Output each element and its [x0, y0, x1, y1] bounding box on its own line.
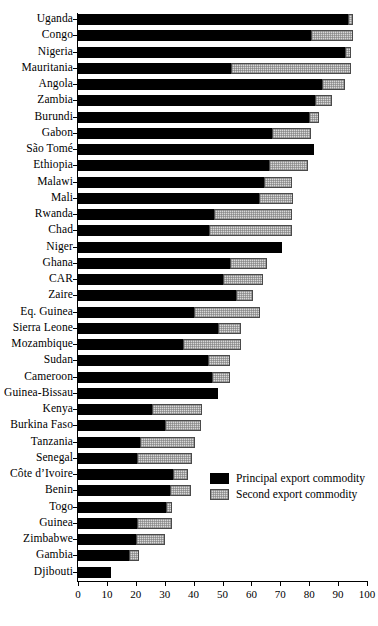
- bar-segment-second: [218, 323, 241, 334]
- y-axis-tick: [73, 117, 77, 118]
- y-axis-tick: [73, 425, 77, 426]
- category-label: Sudan: [0, 354, 73, 365]
- bar-segment-principal: [78, 274, 223, 285]
- bar-segment-second: [348, 14, 352, 25]
- chart-legend: Principal export commodity Second export…: [210, 470, 365, 502]
- x-axis-tick-label: 90: [323, 588, 353, 600]
- y-axis-tick: [73, 182, 77, 183]
- bar-segment-principal: [78, 258, 230, 269]
- x-axis-tick: [107, 581, 108, 586]
- y-axis-tick: [73, 344, 77, 345]
- y-axis-tick: [73, 214, 77, 215]
- category-label: Cameroon: [0, 371, 73, 382]
- category-label: Guinea-Bissau: [0, 387, 73, 398]
- x-axis-tick: [251, 581, 252, 586]
- y-axis-tick: [73, 539, 77, 540]
- x-axis-tick-label: 40: [179, 588, 209, 600]
- category-label: Nigeria: [0, 46, 73, 57]
- y-axis-tick: [73, 247, 77, 248]
- x-axis-tick-label: 30: [150, 588, 180, 600]
- x-axis-tick-label: 20: [121, 588, 151, 600]
- category-label: Mauritania: [0, 62, 73, 73]
- y-axis-tick: [73, 442, 77, 443]
- bar-segment-second: [272, 128, 311, 139]
- bar-segment-principal: [78, 372, 212, 383]
- category-label: São Tomé: [0, 143, 73, 154]
- y-axis-tick: [73, 52, 77, 53]
- x-axis-tick: [165, 581, 166, 586]
- legend-label-second: Second export commodity: [236, 486, 357, 502]
- bar-segment-principal: [78, 567, 111, 578]
- bar-segment-principal: [78, 355, 208, 366]
- bar-segment-principal: [78, 30, 311, 41]
- y-axis-tick: [73, 133, 77, 134]
- bar-segment-principal: [78, 339, 183, 350]
- bar-segment-principal: [78, 209, 214, 220]
- y-axis-tick: [73, 490, 77, 491]
- bar-segment-second: [322, 79, 345, 90]
- bar-segment-principal: [78, 290, 236, 301]
- y-axis-tick: [73, 165, 77, 166]
- bar-segment-principal: [78, 388, 218, 399]
- bar-segment-principal: [78, 534, 136, 545]
- x-axis-tick-label: 80: [294, 588, 324, 600]
- y-axis-tick: [73, 295, 77, 296]
- y-axis-tick: [73, 19, 77, 20]
- black-solid-swatch-icon: [210, 473, 229, 484]
- y-axis-tick: [73, 149, 77, 150]
- bar-segment-second: [140, 437, 195, 448]
- category-label: Burkina Faso: [0, 419, 73, 430]
- y-axis-tick: [73, 84, 77, 85]
- bar-segment-second: [170, 485, 190, 496]
- bar-segment-second: [137, 453, 192, 464]
- bar-segment-principal: [78, 453, 137, 464]
- bar-segment-principal: [78, 14, 348, 25]
- category-label: Côte d’Ivoire: [0, 468, 73, 479]
- category-label: Tanzania: [0, 436, 73, 447]
- y-axis-tick: [73, 458, 77, 459]
- bar-segment-second: [236, 290, 253, 301]
- gray-hatched-swatch-icon: [210, 489, 229, 500]
- category-label: Chad: [0, 224, 73, 235]
- bar-segment-second: [166, 502, 172, 513]
- bar-segment-principal: [78, 323, 218, 334]
- category-label: Zambia: [0, 94, 73, 105]
- x-axis-tick: [194, 581, 195, 586]
- y-axis-tick: [73, 474, 77, 475]
- bar-segment-principal: [78, 518, 137, 529]
- category-label: Angola: [0, 78, 73, 89]
- category-label: Sierra Leone: [0, 322, 73, 333]
- category-label: Gambia: [0, 549, 73, 560]
- y-axis-tick: [73, 572, 77, 573]
- bar-segment-principal: [78, 502, 166, 513]
- y-axis-tick: [73, 393, 77, 394]
- x-axis-tick: [367, 581, 368, 586]
- bar-segment-second: [208, 355, 230, 366]
- y-axis-tick: [73, 555, 77, 556]
- category-label: Uganda: [0, 13, 73, 24]
- category-label: Mozambique: [0, 338, 73, 349]
- bar-segment-principal: [78, 469, 173, 480]
- legend-item-second: Second export commodity: [210, 486, 365, 502]
- category-label: Ghana: [0, 257, 73, 268]
- y-axis-tick: [73, 523, 77, 524]
- bar-segment-principal: [78, 128, 272, 139]
- y-axis-tick: [73, 263, 77, 264]
- category-label: Burundi: [0, 111, 73, 122]
- category-label: Senegal: [0, 452, 73, 463]
- y-axis-tick: [73, 279, 77, 280]
- category-label: CAR: [0, 273, 73, 284]
- x-axis-tick-label: 10: [92, 588, 122, 600]
- bar-segment-second: [309, 112, 319, 123]
- bar-segment-second: [136, 534, 165, 545]
- bar-segment-second: [194, 307, 260, 318]
- y-axis-tick: [73, 198, 77, 199]
- x-axis-tick: [309, 581, 310, 586]
- bar-segment-principal: [78, 225, 209, 236]
- y-axis-tick: [73, 360, 77, 361]
- category-label: Ethiopia: [0, 159, 73, 170]
- y-axis-tick: [73, 377, 77, 378]
- bar-segment-principal: [78, 420, 165, 431]
- bar-segment-second: [129, 550, 139, 561]
- bar-segment-principal: [78, 242, 282, 253]
